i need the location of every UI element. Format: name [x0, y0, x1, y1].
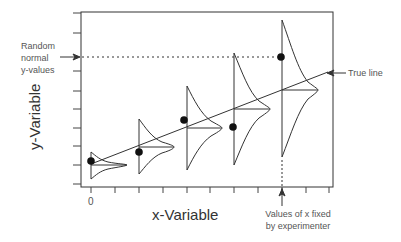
- x-origin-label: 0: [88, 196, 94, 208]
- arrow-random-normal: [60, 54, 80, 60]
- true-line-label: True line: [348, 67, 383, 79]
- true-line: [91, 72, 328, 164]
- random-normal-label-line2: normal: [21, 52, 55, 64]
- random-normal-label: Random normal y-values: [21, 40, 55, 76]
- data-point: [135, 148, 143, 156]
- normal-distribution-1: [91, 152, 127, 179]
- data-point: [87, 157, 95, 165]
- arrow-fixed-x: [279, 189, 285, 206]
- x-axis-title: x-Variable: [152, 206, 218, 223]
- normal-distribution-2: [139, 119, 174, 174]
- normal-distribution-5: [282, 20, 318, 190]
- fixed-x-label: Values of x fixed by experimenter: [258, 208, 338, 232]
- fixed-x-label-line2: by experimenter: [258, 220, 338, 232]
- x-axis-ticks: [91, 187, 329, 193]
- plot-frame: [81, 12, 333, 187]
- data-point: [180, 116, 188, 124]
- normal-distribution-4: [234, 53, 270, 165]
- data-point: [277, 53, 285, 61]
- fixed-x-label-line1: Values of x fixed: [258, 208, 338, 220]
- normal-distribution-3: [187, 86, 222, 170]
- y-axis-title: y-Variable: [26, 84, 43, 150]
- arrow-true-line: [327, 70, 346, 76]
- random-normal-label-line1: Random: [21, 40, 55, 52]
- random-normal-label-line3: y-values: [21, 64, 55, 76]
- y-axis-ticks: [73, 13, 81, 184]
- data-point: [229, 123, 237, 131]
